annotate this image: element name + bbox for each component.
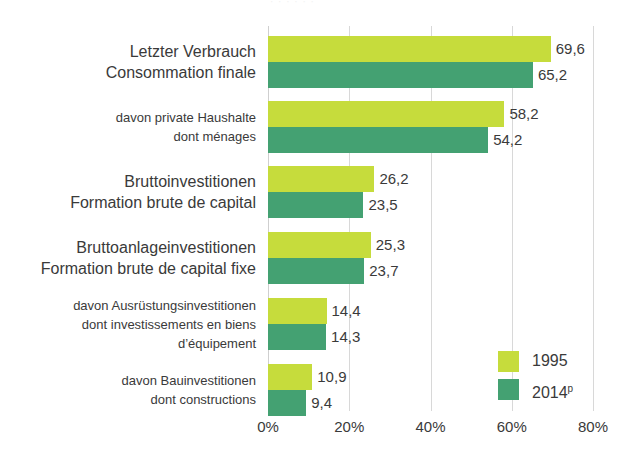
value-label-1995-5: 14,4 [332,298,361,324]
category-label-line: Formation brute de capital fixe [41,258,256,279]
chart-legend: 19952014p [498,348,598,408]
legend-swatch-2014 [498,379,519,400]
x-tick-20pct: 20% [334,418,364,435]
bar-2014-1 [268,62,533,88]
chart-title-sliver: · · · · · · [270,0,470,8]
category-label-line: davon Bauinvestitionen [122,371,256,390]
value-label-1995-2: 58,2 [509,101,538,127]
bar-1995-5 [268,298,327,324]
value-label-2014-5: 14,3 [331,324,360,350]
category-label-line: Bruttoanlageinvestitionen [41,237,256,258]
legend-item-2014[interactable]: 2014p [498,376,598,404]
value-label-1995-3: 26,2 [379,166,408,192]
value-label-2014-6: 9,4 [311,390,332,416]
x-tick-60pct: 60% [497,418,527,435]
x-axis-tick-labels: 0%20%40%60%80% [0,418,621,442]
value-label-2014-1: 65,2 [538,62,567,88]
bar-1995-6 [268,364,312,390]
value-label-2014-4: 23,7 [369,258,398,284]
x-tick-40pct: 40% [415,418,445,435]
bar-2014-3 [268,192,363,218]
bar-2014-5 [268,324,326,350]
bar-2014-6 [268,390,306,416]
category-label-line: dont investissements en biens [73,315,256,334]
category-label-line: Consommation finale [106,62,256,83]
value-label-1995-1: 69,6 [556,36,585,62]
legend-swatch-1995 [498,351,519,372]
legend-item-1995[interactable]: 1995 [498,348,598,376]
x-tick-80pct: 80% [578,418,608,435]
bar-chart: · · · · · · Letzter VerbrauchConsommatio… [0,0,621,452]
legend-label-2014: 2014p [532,376,573,406]
value-label-2014-3: 23,5 [368,192,397,218]
category-label-line: d’équipement [73,334,256,353]
category-label-line: Letzter Verbrauch [106,41,256,62]
category-label-line: Formation brute de capital [70,192,256,213]
legend-label-1995: 1995 [532,348,568,374]
category-label-3: BruttoinvestitionenFormation brute de ca… [70,171,256,213]
bar-2014-2 [268,127,488,153]
value-label-1995-4: 25,3 [376,232,405,258]
x-tick-0pct: 0% [257,418,279,435]
bar-1995-2 [268,101,504,127]
bar-1995-3 [268,166,374,192]
value-label-1995-6: 10,9 [317,364,346,390]
category-label-line: dont ménages [116,127,256,146]
value-label-2014-2: 54,2 [493,127,522,153]
category-label-5: davon Ausrüstungsinvestitionendont inves… [73,296,256,353]
category-label-column: Letzter VerbrauchConsommation finaledavo… [0,26,256,411]
category-label-line: davon Ausrüstungsinvestitionen [73,296,256,315]
bar-1995-4 [268,232,371,258]
category-label-6: davon Bauinvestitionendont constructions [122,371,256,409]
legend-label-superscript: p [568,383,574,394]
category-label-4: BruttoanlageinvestitionenFormation brute… [41,237,256,279]
category-label-2: davon private Haushaltedont ménages [116,108,256,146]
category-label-line: dont constructions [122,390,256,409]
category-label-1: Letzter VerbrauchConsommation finale [106,41,256,83]
category-label-line: davon private Haushalte [116,108,256,127]
bar-1995-1 [268,36,551,62]
category-label-line: Bruttoinvestitionen [70,171,256,192]
bar-2014-4 [268,258,364,284]
